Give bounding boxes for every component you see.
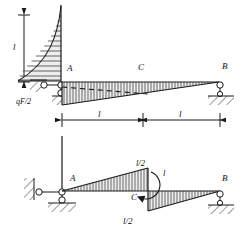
- moment-magnitude-label: l: [163, 168, 166, 178]
- upper-right-support: [208, 82, 234, 105]
- support-pin-right-lower: [217, 191, 223, 197]
- support-wall-hatch-lower: [24, 178, 34, 200]
- lower-left-support: [24, 178, 76, 212]
- support-hatch-base-lower: [48, 203, 76, 212]
- peak-label-lower: l/2: [136, 158, 146, 168]
- lower-right-support: [208, 191, 234, 214]
- label-node-a-upper: A: [66, 63, 73, 73]
- support-pin-left-a: [41, 82, 47, 88]
- span-right-label: l: [179, 109, 182, 119]
- support-pin-lower-a: [36, 189, 42, 195]
- lower-diagram: l/2 l C l/2 A B: [24, 136, 234, 226]
- horizontal-dimensions: l l: [62, 109, 220, 127]
- vertical-dimension-l: l: [13, 15, 30, 82]
- bottom-label-lower: l/2: [123, 216, 133, 226]
- support-hatch-right-upper: [208, 96, 234, 105]
- upper-diagram: l: [13, 5, 234, 127]
- vertical-dimension-label: l: [13, 42, 16, 52]
- upper-moment-triangle: [62, 82, 219, 105]
- diagram-canvas: l: [0, 0, 241, 232]
- support-pin-lower-b: [59, 189, 65, 195]
- span-left-label: l: [98, 109, 101, 119]
- label-node-a-lower: A: [69, 173, 76, 183]
- label-node-b-lower: B: [222, 173, 228, 183]
- support-hatch-right-lower: [208, 205, 234, 214]
- structural-diagram-figure: l: [0, 0, 241, 232]
- label-node-c-upper: C: [138, 62, 145, 72]
- support-pin-right-upper: [217, 82, 223, 88]
- label-node-b-upper: B: [222, 61, 228, 71]
- support-pin-lower-c: [59, 197, 65, 203]
- label-node-c-lower: C: [131, 192, 138, 202]
- load-label: qF/2: [16, 97, 31, 106]
